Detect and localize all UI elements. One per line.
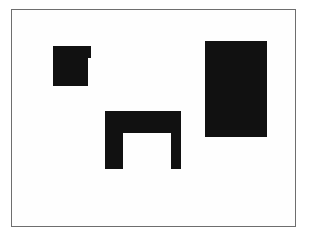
arch-part-1: [105, 133, 123, 169]
arch-part-0: [105, 111, 181, 133]
notched-square-part-1: [53, 58, 88, 86]
notched-square-part-0: [53, 46, 91, 58]
tall-rectangle-part-0: [205, 41, 267, 137]
arch-part-2: [171, 133, 181, 169]
